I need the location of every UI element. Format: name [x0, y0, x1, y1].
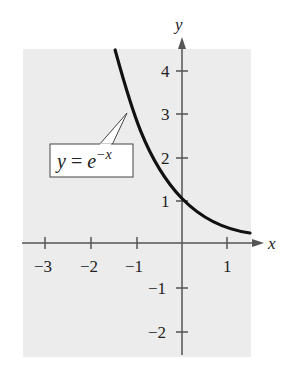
y-tick-label: −2 [148, 323, 166, 342]
y-tick-label: −1 [148, 279, 166, 298]
y-tick-label: 1 [161, 192, 170, 211]
y-tick-label: 4 [161, 62, 170, 81]
y-tick-label: 2 [161, 149, 170, 168]
x-axis-label: x [267, 234, 276, 253]
chart: x y −3 −2 −1 1 4 3 2 1 −1 −2 y = e−x [0, 0, 282, 378]
y-axis-arrow-icon [178, 37, 186, 49]
x-tick-label: −2 [80, 257, 98, 276]
x-axis-arrow-icon [252, 239, 264, 247]
y-axis-label: y [173, 15, 183, 34]
x-tick-label: −3 [34, 257, 52, 276]
y-tick-label: 3 [161, 105, 170, 124]
x-tick-label: −1 [125, 257, 143, 276]
plot-panel [23, 49, 251, 357]
x-tick-label: 1 [223, 257, 232, 276]
